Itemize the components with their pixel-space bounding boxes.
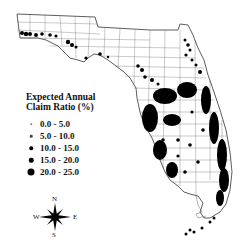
legend-title-line1: Expected Annual bbox=[16, 92, 126, 102]
dot-icon bbox=[29, 158, 34, 163]
legend-item: 20.0 - 25.0 bbox=[16, 166, 126, 178]
legend-item: 5.0 - 10.0 bbox=[16, 130, 126, 142]
dot-icon bbox=[28, 169, 35, 176]
compass-north: N bbox=[52, 195, 57, 203]
compass-rose: N S W E bbox=[30, 195, 80, 240]
legend-title-line2: Claim Ratio (%) bbox=[16, 102, 126, 112]
legend-item: 15.0 - 20.0 bbox=[16, 154, 126, 166]
compass-west: W bbox=[33, 213, 40, 221]
dot-icon bbox=[30, 123, 32, 125]
dot-icon bbox=[30, 135, 33, 138]
compass-east: E bbox=[73, 213, 77, 221]
legend-item: 10.0 - 15.0 bbox=[16, 142, 126, 154]
map-legend: Expected Annual Claim Ratio (%) 0.0 - 5.… bbox=[16, 92, 126, 178]
dot-icon bbox=[29, 146, 33, 150]
compass-south: S bbox=[52, 231, 56, 239]
legend-item: 0.0 - 5.0 bbox=[16, 118, 126, 130]
